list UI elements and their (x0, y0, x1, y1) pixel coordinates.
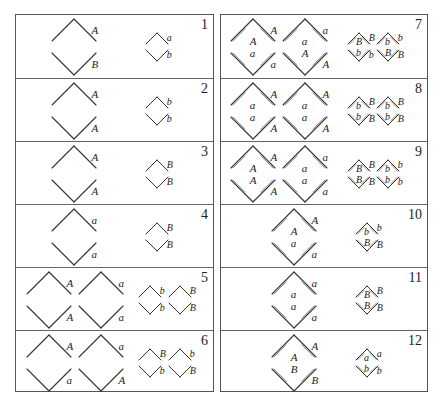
figure-cell-4: 4aaBB (16, 204, 213, 267)
diamond-diagram: AaAaaAaABbBbbBbB (221, 15, 427, 78)
edge-label-top: a (311, 277, 317, 289)
edge-label-bottom: b (377, 365, 382, 376)
inner-label-lower: a (250, 111, 256, 123)
figure-cell-12: 12ABABabab (221, 330, 427, 393)
inner-label-upper: a (302, 35, 308, 47)
figure-cell-10: 10AaAabBbB (221, 204, 427, 267)
inner-label-upper: b (385, 36, 390, 47)
edge-label-bottom: B (369, 176, 375, 187)
edge-label-bottom: B (398, 113, 404, 124)
edge-label-top: b (190, 348, 195, 359)
inner-label-lower: a (302, 111, 308, 123)
figure-cell-1: 1ABab (16, 15, 213, 78)
edge-label-bottom: b (160, 365, 165, 376)
diamond-diagram: AABB (16, 142, 213, 205)
edge-label-bottom: a (311, 248, 317, 260)
edge-label-top: a (377, 348, 382, 359)
edge-label-top: b (377, 222, 382, 233)
edge-label-bottom: A (117, 374, 125, 386)
inner-label-upper: b (356, 100, 361, 111)
edge-label-top: a (118, 340, 124, 352)
edge-label-top: a (322, 151, 328, 163)
edge-label-bottom: b (167, 113, 172, 124)
inner-label-lower: b (385, 174, 390, 185)
edge-label-bottom: B (167, 176, 173, 187)
inner-label-lower: B (364, 237, 370, 248)
inner-label-upper: A (290, 351, 298, 363)
diamond-diagram: ABab (16, 15, 213, 78)
edge-label-top: a (322, 24, 328, 36)
edge-label-top: A (269, 151, 277, 163)
edge-label-top: A (65, 340, 73, 352)
figure-cell-5: 5AAaabbBB (16, 267, 213, 330)
edge-label-top: B (377, 285, 383, 296)
edge-label-top: A (310, 214, 318, 226)
edge-label-top: A (90, 88, 98, 100)
edge-label-top: A (90, 24, 98, 36)
inner-label-upper: A (249, 162, 257, 174)
edge-label-top: B (369, 32, 375, 43)
diamond-diagram: ABABabab (221, 331, 427, 394)
edge-label-bottom: A (269, 185, 277, 197)
edge-label-bottom: b (167, 49, 172, 60)
edge-label-bottom: a (66, 374, 72, 386)
inner-label-upper: b (385, 163, 390, 174)
edge-label-bottom: b (369, 49, 374, 60)
inner-label-lower: B (364, 300, 370, 311)
edge-label-bottom: b (160, 302, 165, 313)
edge-label-bottom: B (311, 374, 318, 386)
edge-label-bottom: B (167, 239, 173, 250)
inner-label-lower: b (356, 111, 361, 122)
edge-label-bottom: B (190, 302, 196, 313)
inner-label-upper: a (291, 288, 297, 300)
edge-label-top: B (398, 96, 404, 107)
edge-label-bottom: a (311, 311, 317, 323)
edge-label-bottom: B (91, 58, 98, 70)
edge-label-top: a (118, 277, 124, 289)
inner-label-upper: A (290, 225, 298, 237)
edge-label-bottom: B (369, 113, 375, 124)
figure-cell-11: 11aaaaBBBB (221, 267, 427, 330)
edge-label-bottom: B (377, 239, 383, 250)
edge-label-top: B (369, 96, 375, 107)
edge-label-bottom: A (90, 122, 98, 134)
inner-label-upper: a (250, 99, 256, 111)
edge-label-bottom: A (269, 122, 277, 134)
inner-label-lower: b (364, 363, 369, 374)
edge-label-top: A (269, 88, 277, 100)
diamond-diagram: AaaABbbB (16, 331, 213, 394)
diamond-diagram: AAAAaaaaBBBBbbbb (221, 142, 427, 205)
edge-label-bottom: a (118, 311, 124, 323)
edge-label-top: a (91, 214, 97, 226)
inner-label-lower: B (356, 174, 362, 185)
left-panel: 1ABab2AAbb3AABB4aaBB5AAaabbBB6AaaABbbB (15, 14, 214, 392)
inner-label-lower: A (249, 174, 257, 186)
figure-cell-8: 8AAaaAAaaBBbbBBbb (221, 78, 427, 141)
edge-label-bottom: a (270, 58, 276, 70)
diamond-diagram: aaBB (16, 205, 213, 268)
inner-label-lower: a (291, 300, 297, 312)
edge-label-bottom: A (321, 58, 329, 70)
right-panel: 7AaAaaAaABbBbbBbB8AAaaAAaaBBbbBBbb9AAAAa… (220, 14, 428, 392)
edge-label-top: B (190, 285, 196, 296)
inner-label-upper: B (356, 36, 362, 47)
inner-label-upper: b (364, 226, 369, 237)
diamond-diagram: AAbb (16, 79, 213, 142)
inner-label-lower: b (385, 111, 390, 122)
inner-label-upper: A (249, 35, 257, 47)
edge-label-bottom: A (65, 311, 73, 323)
inner-label-lower: a (291, 237, 297, 249)
inner-label-upper: B (356, 163, 362, 174)
edge-label-top: A (321, 88, 329, 100)
inner-label-upper: a (364, 352, 369, 363)
diamond-diagram: AAaaAAaaBBbbBBbb (221, 79, 427, 142)
edge-label-top: a (167, 32, 172, 43)
edge-label-top: b (398, 32, 403, 43)
edge-label-bottom: a (91, 248, 97, 260)
diamond-diagram: AaAabBbB (221, 205, 427, 268)
edge-label-top: b (398, 159, 403, 170)
edge-label-top: A (65, 277, 73, 289)
figure-cell-2: 2AAbb (16, 78, 213, 141)
edge-label-bottom: b (398, 176, 403, 187)
edge-label-top: b (167, 96, 172, 107)
